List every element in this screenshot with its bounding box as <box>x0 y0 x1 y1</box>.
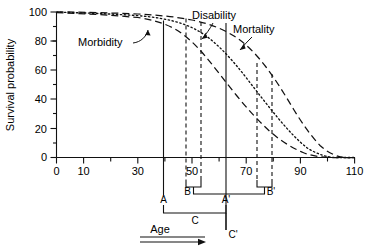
disability-label: Disability <box>192 9 237 21</box>
label-C: C <box>191 215 198 226</box>
x-tick-label-70: 70 <box>240 165 252 177</box>
label-C-prime: C' <box>228 229 237 240</box>
y-tick-label-0: 0 <box>41 151 47 163</box>
label-A: A <box>160 194 167 205</box>
label-A-prime: A' <box>222 194 231 205</box>
x-axis-title: Age <box>150 223 170 235</box>
y-tick-label-60: 60 <box>35 64 47 76</box>
morbidity-arrowhead-icon <box>145 30 150 35</box>
survival-probability-chart: 100 80 60 40 20 0 Survival probability 0… <box>0 0 375 251</box>
x-tick-label-110: 110 <box>346 165 364 177</box>
label-B-prime: B' <box>267 186 276 197</box>
mortality-label: Mortality <box>233 23 275 35</box>
x-tick-label-50: 50 <box>186 165 198 177</box>
y-tick-label-20: 20 <box>35 123 47 135</box>
x-axis-ticks <box>57 158 355 164</box>
label-B: B <box>184 186 191 197</box>
y-axis-tick-labels: 100 80 60 40 20 0 <box>29 6 47 163</box>
x-axis-tick-labels: 0 10 30 50 70 90 110 <box>53 165 363 177</box>
y-tick-label-40: 40 <box>35 93 47 105</box>
bracket-C <box>164 205 227 213</box>
x-tick-label-30: 30 <box>132 165 144 177</box>
x-tick-label-10: 10 <box>77 165 89 177</box>
y-axis-ticks <box>51 12 57 158</box>
y-tick-label-80: 80 <box>35 35 47 47</box>
y-axis-title: Survival probability <box>4 38 16 131</box>
morbidity-label: Morbidity <box>78 36 123 48</box>
morbidity-leader-icon <box>133 30 148 43</box>
x-tick-label-90: 90 <box>294 165 306 177</box>
y-tick-label-100: 100 <box>29 6 47 18</box>
arrow-right-icon <box>198 239 206 245</box>
x-tick-label-0: 0 <box>53 165 59 177</box>
